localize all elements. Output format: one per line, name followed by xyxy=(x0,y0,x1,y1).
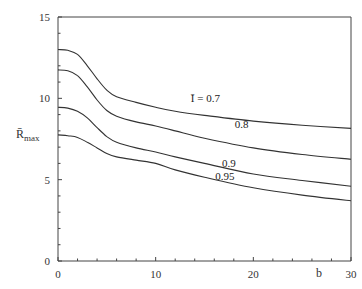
y-axis-label-sub: max xyxy=(24,133,40,143)
series-line xyxy=(58,107,351,186)
x-tick-label: 20 xyxy=(248,268,260,280)
y-axis-label-main: R̄ xyxy=(16,127,24,141)
x-tick-label: 30 xyxy=(346,268,358,280)
x-axis-label: b xyxy=(316,266,322,280)
y-tick-label: 0 xyxy=(45,255,51,267)
series-line xyxy=(58,50,351,129)
series-line xyxy=(58,135,351,201)
x-tick-label: 0 xyxy=(55,268,61,280)
y-axis-label: R̄max xyxy=(16,127,40,143)
tick-labels: 0102030051015 xyxy=(39,11,357,280)
y-tick-label: 5 xyxy=(45,174,51,186)
axes xyxy=(58,17,351,261)
curve-label: 0.95 xyxy=(215,170,235,182)
curve-label: Ī = 0.7 xyxy=(191,92,221,104)
curve-label: 0.8 xyxy=(235,118,249,130)
line-chart: 0102030051015 Ī = 0.70.80.90.95 b R̄max xyxy=(0,0,362,289)
series-line xyxy=(58,70,351,159)
plot-frame xyxy=(58,17,351,261)
curve-label: 0.9 xyxy=(222,157,236,169)
curves xyxy=(58,50,351,201)
y-tick-label: 15 xyxy=(39,11,51,23)
ticks xyxy=(58,17,351,261)
y-tick-label: 10 xyxy=(39,92,51,104)
x-tick-label: 10 xyxy=(150,268,162,280)
